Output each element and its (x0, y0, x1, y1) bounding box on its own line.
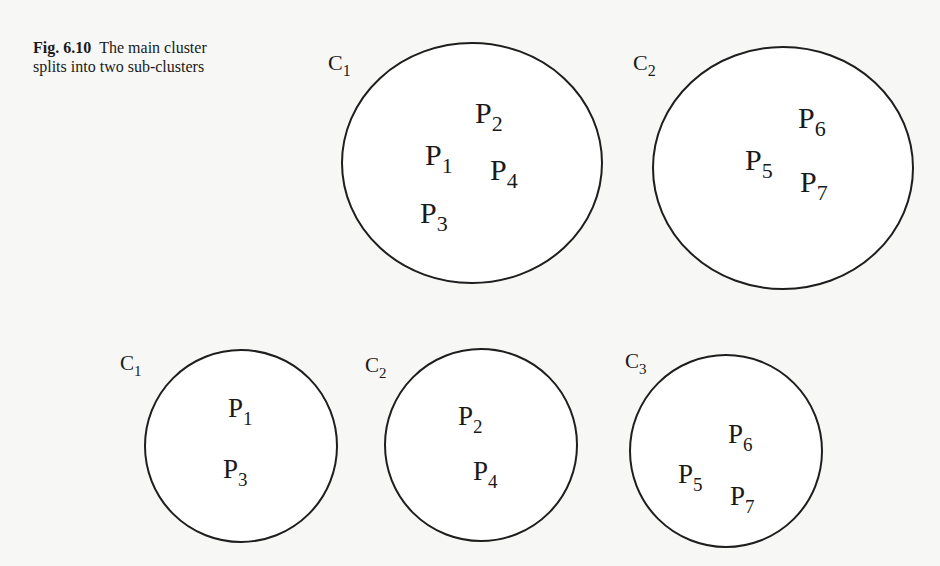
top-row-clusters: C1P2P1P4P3C2P6P5P7 (328, 43, 913, 289)
cluster-label: C2 (633, 50, 656, 79)
cluster-boundary (145, 350, 337, 542)
cluster-boundary (385, 349, 577, 541)
cluster-boundary (342, 43, 602, 283)
cluster-label: C2 (365, 353, 387, 381)
cluster-label: C3 (625, 349, 647, 377)
cluster-diagram: C1P2P1P4P3C2P6P5P7 C1P1P3C2P2P4C3P6P5P7 (0, 0, 940, 566)
bottom-row-clusters: C1P1P3C2P2P4C3P6P5P7 (120, 349, 822, 547)
cluster-label: C1 (120, 351, 142, 379)
cluster-c1: C1P2P1P4P3 (328, 43, 602, 283)
cluster-boundary (653, 47, 913, 289)
cluster-boundary (630, 355, 822, 547)
cluster-c1: C1P1P3 (120, 350, 337, 542)
cluster-c3: C3P6P5P7 (625, 349, 822, 547)
cluster-c2: C2P6P5P7 (633, 47, 913, 289)
cluster-c2: C2P2P4 (365, 349, 577, 541)
cluster-label: C1 (328, 50, 351, 79)
